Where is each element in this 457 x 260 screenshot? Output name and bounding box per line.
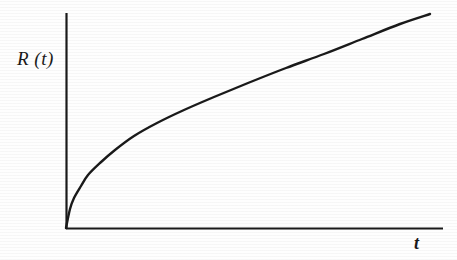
y-axis-label: R (t)	[17, 48, 54, 70]
x-axis-label: t	[414, 233, 419, 254]
renewal-function-curve	[66, 14, 430, 228]
plot-canvas	[0, 0, 457, 260]
figure-container: R (t) t	[0, 0, 457, 260]
